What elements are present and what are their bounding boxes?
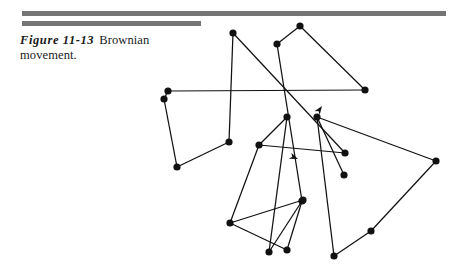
walk-segment	[233, 33, 345, 153]
walk-segment	[177, 142, 229, 167]
walk-segment	[371, 161, 436, 231]
walk-segment	[277, 26, 300, 44]
walk-vertex	[361, 86, 368, 93]
walk-vertex	[367, 227, 374, 234]
walk-segment	[300, 26, 365, 90]
walk-segment	[287, 201, 302, 250]
figure-page: Figure 11-13Brownian movement.	[0, 0, 460, 272]
walk-vertex	[164, 87, 171, 94]
walk-vertex	[340, 171, 347, 178]
walk-vertex	[265, 248, 272, 255]
walk-segment	[230, 145, 259, 223]
walk-segment	[164, 99, 177, 167]
walk-vertex	[296, 22, 303, 29]
walk-vertex	[299, 196, 306, 203]
walk-vertex	[313, 113, 320, 120]
walk-vertex	[229, 29, 236, 36]
walk-vertex	[273, 40, 280, 47]
walk-segment	[229, 33, 233, 142]
brownian-motion-figure	[0, 0, 460, 272]
walk-vertex	[255, 141, 262, 148]
walk-vertex	[432, 157, 439, 164]
arrow-up-left-icon	[315, 104, 325, 115]
walk-vertex	[283, 113, 290, 120]
walk-segment	[334, 231, 371, 256]
walk-vertex	[160, 95, 167, 102]
collision-point-markers	[160, 22, 439, 259]
walk-segment	[269, 117, 287, 252]
walk-vertex	[341, 149, 348, 156]
walk-vertex	[173, 163, 180, 170]
random-walk-segments	[164, 26, 436, 256]
walk-segment	[230, 200, 303, 223]
walk-segment	[259, 117, 287, 145]
walk-vertex	[226, 219, 233, 226]
walk-vertex	[225, 138, 232, 145]
walk-vertex	[330, 252, 337, 259]
walk-segment	[168, 90, 365, 91]
walk-vertex	[283, 246, 290, 253]
